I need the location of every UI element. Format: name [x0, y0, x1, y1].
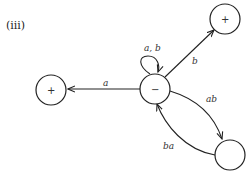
- edge-label-a: a: [103, 78, 108, 88]
- edge-label-ab: ab: [206, 94, 217, 104]
- node-center: −: [140, 74, 170, 104]
- diagram-title: (iii): [6, 19, 25, 32]
- state-diagram: (iii) a b a, b ab ba − + +: [0, 0, 250, 171]
- edge-label-b: b: [192, 56, 198, 66]
- edge-label-ba: ba: [163, 141, 174, 151]
- node-center-symbol: −: [151, 84, 159, 95]
- node-bottom-right: [215, 140, 245, 170]
- edge-self-loop: [141, 56, 159, 74]
- edge-label-self-loop: a, b: [144, 43, 161, 53]
- node-top-right: +: [210, 4, 240, 34]
- node-top-right-symbol: +: [221, 14, 229, 25]
- edge-center-to-top-right: [165, 30, 214, 77]
- node-left-symbol: +: [47, 85, 55, 96]
- node-left: +: [36, 75, 66, 105]
